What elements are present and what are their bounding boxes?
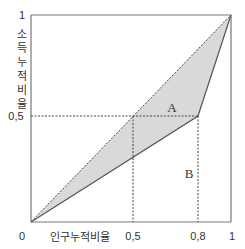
- region-label-a: A: [167, 100, 177, 115]
- tick-x-half: 0,5: [125, 230, 140, 242]
- tick-origin: 0: [19, 230, 25, 242]
- x-axis-label: 인구누적비율: [50, 231, 110, 244]
- y-axis-label-char-2: 득: [17, 42, 27, 55]
- y-axis-label-char-1: 소: [17, 28, 27, 41]
- y-axis-label-char-5: 비: [17, 84, 27, 97]
- tick-x-1: 1: [229, 230, 235, 242]
- y-axis-label-char-4: 적: [17, 70, 27, 83]
- tick-y-half: 0,5: [8, 110, 23, 122]
- region-label-b: B: [185, 166, 194, 181]
- tick-y-1: 1: [19, 9, 25, 21]
- lorenz-curve-chart: 1 0,5 소 득 누 적 비 율 0 0,5 0,8 1 인구누적비율 A B: [0, 0, 245, 249]
- y-axis-label-char-6: 율: [17, 98, 27, 111]
- tick-x-08: 0,8: [190, 230, 205, 242]
- y-axis-label-char-3: 누: [17, 56, 27, 69]
